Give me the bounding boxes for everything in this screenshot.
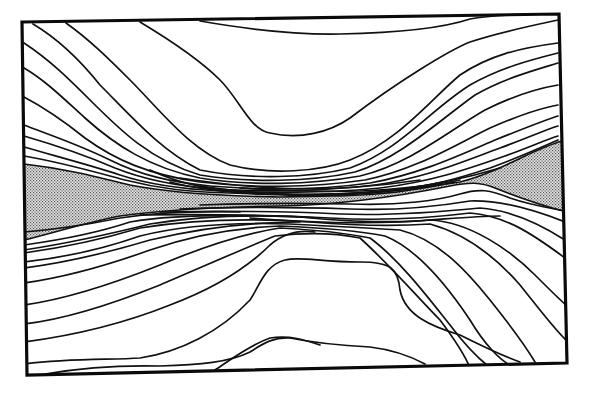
contour-line	[24, 231, 315, 342]
contour-line	[24, 224, 535, 363]
upper-contour-group	[24, 15, 558, 196]
contour-line	[140, 20, 558, 136]
contour-line	[66, 23, 558, 171]
contour-line	[24, 97, 558, 186]
contour-line	[33, 24, 558, 177]
contour-line	[24, 259, 520, 364]
contour-line	[24, 43, 558, 180]
contour-line	[24, 220, 566, 340]
contour-diagram	[0, 0, 590, 395]
diagram-canvas	[0, 0, 590, 395]
